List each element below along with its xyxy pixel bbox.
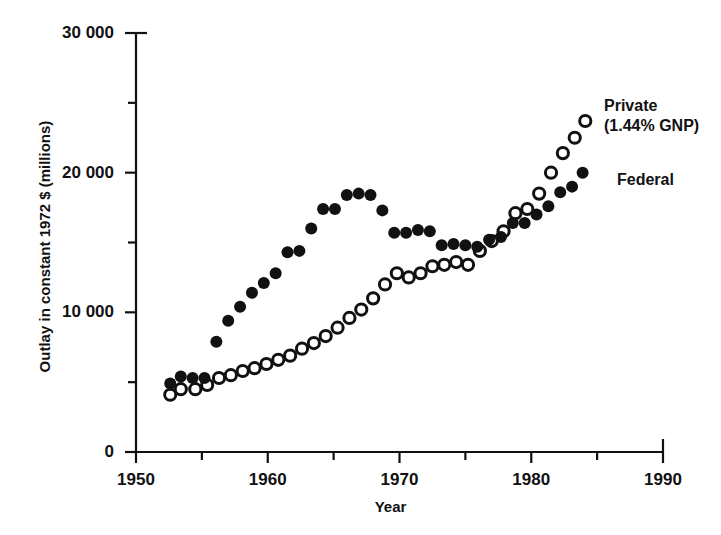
data-point xyxy=(175,384,186,395)
axis-ticks xyxy=(125,33,663,463)
data-point xyxy=(542,200,554,212)
data-point xyxy=(545,167,556,178)
data-point xyxy=(187,372,199,384)
data-point xyxy=(222,315,234,327)
data-point xyxy=(534,188,545,199)
series-label-private-line1: Private xyxy=(604,96,699,116)
data-point xyxy=(368,293,379,304)
data-point xyxy=(199,372,211,384)
data-point xyxy=(308,337,319,348)
data-point xyxy=(557,148,568,159)
data-point xyxy=(412,224,424,236)
data-point xyxy=(246,287,258,299)
data-point xyxy=(424,225,436,237)
data-point xyxy=(190,384,201,395)
data-point xyxy=(341,189,353,201)
data-point xyxy=(165,389,176,400)
x-tick-label-1970: 1970 xyxy=(355,470,445,490)
x-tick-label-1990: 1990 xyxy=(618,470,708,490)
data-point xyxy=(293,245,305,257)
axis-lines xyxy=(136,33,663,452)
x-tick-label-1980: 1980 xyxy=(486,470,576,490)
data-point xyxy=(459,239,471,251)
data-point xyxy=(554,186,566,198)
data-point xyxy=(566,181,578,193)
data-point xyxy=(486,236,497,247)
x-tick-label-1960: 1960 xyxy=(223,470,313,490)
data-point xyxy=(400,227,412,239)
data-point xyxy=(474,245,485,256)
data-point xyxy=(296,343,307,354)
x-tick-label-1950: 1950 xyxy=(91,470,181,490)
data-point xyxy=(258,277,270,289)
data-point xyxy=(356,304,367,315)
data-point xyxy=(415,268,426,279)
y-tick-label-10000: 10 000 xyxy=(6,302,114,322)
data-point xyxy=(210,336,222,348)
series-label-federal: Federal xyxy=(617,170,674,190)
data-point xyxy=(388,227,400,239)
data-point xyxy=(175,371,187,383)
data-point xyxy=(451,256,462,267)
series-label-private-line2: (1.44% GNP) xyxy=(604,116,699,136)
data-point xyxy=(427,261,438,272)
series-label-private: Private (1.44% GNP) xyxy=(604,96,699,136)
data-point xyxy=(273,354,284,365)
data-point xyxy=(249,363,260,374)
data-point xyxy=(282,246,294,258)
data-point xyxy=(391,268,402,279)
data-point xyxy=(439,259,450,270)
y-tick-label-30000: 30 000 xyxy=(6,23,114,43)
data-point xyxy=(495,231,507,243)
chart-figure: 30 000 20 000 10 000 0 1950 1960 1970 19… xyxy=(0,0,721,535)
data-point xyxy=(213,372,224,383)
data-point xyxy=(261,358,272,369)
data-point xyxy=(462,259,473,270)
data-point xyxy=(522,203,533,214)
data-point xyxy=(577,167,589,179)
x-axis-title: Year xyxy=(0,498,721,515)
data-point xyxy=(379,279,390,290)
data-point xyxy=(164,378,176,390)
y-tick-label-0: 0 xyxy=(6,442,114,462)
series-federal-markers xyxy=(164,167,588,390)
data-point xyxy=(332,322,343,333)
y-axis-title: Outlay in constant 1972 $ (millions) xyxy=(36,27,53,467)
data-point xyxy=(353,188,365,200)
data-point xyxy=(471,241,483,253)
data-point xyxy=(365,189,377,201)
data-point xyxy=(305,223,317,235)
data-point xyxy=(580,115,591,126)
data-point xyxy=(483,234,495,246)
data-point xyxy=(531,209,543,221)
y-tick-label-20000: 20 000 xyxy=(6,163,114,183)
data-point xyxy=(317,203,329,215)
data-point xyxy=(507,217,519,229)
data-point xyxy=(403,272,414,283)
series-private-markers xyxy=(165,115,591,400)
data-point xyxy=(569,132,580,143)
data-point xyxy=(436,239,448,251)
data-point xyxy=(329,203,341,215)
data-point xyxy=(270,267,282,279)
data-point xyxy=(448,238,460,250)
data-point xyxy=(376,204,388,216)
data-point xyxy=(320,330,331,341)
data-point xyxy=(510,208,521,219)
data-point xyxy=(344,312,355,323)
x-axis-title-text: Year xyxy=(375,498,407,515)
data-point xyxy=(225,370,236,381)
data-point xyxy=(234,301,246,313)
data-point xyxy=(519,217,531,229)
data-point xyxy=(498,226,509,237)
data-point xyxy=(285,350,296,361)
data-point xyxy=(237,365,248,376)
data-point xyxy=(202,379,213,390)
